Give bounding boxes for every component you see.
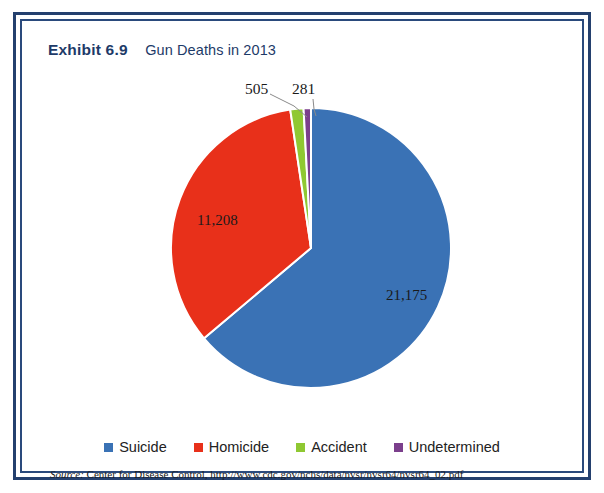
source-prefix: Source: (50, 468, 84, 480)
legend-label-accident: Accident (311, 439, 367, 455)
pie-slice-group (171, 108, 451, 388)
legend-label-homicide: Homicide (209, 439, 269, 455)
legend-item-suicide[interactable]: Suicide (104, 439, 167, 455)
pie-chart-svg: 21,175 11,208 505 281 (22, 21, 600, 489)
legend-swatch-accident (296, 443, 305, 452)
exhibit-card: Exhibit 6.9 Gun Deaths in 2013 21,175 11… (13, 12, 591, 480)
slice-value-label-accident: 505 (245, 80, 269, 97)
source-text: Center for Disease Control, http://www.c… (84, 468, 464, 480)
slice-value-label-undetermined: 281 (292, 80, 315, 97)
slice-value-label-suicide: 21,175 (386, 287, 427, 303)
legend-item-undetermined[interactable]: Undetermined (394, 439, 500, 455)
legend-swatch-undetermined (394, 443, 403, 452)
pie-chart-plot-area: 21,175 11,208 505 281 (22, 21, 600, 489)
legend-swatch-suicide (104, 443, 113, 452)
legend-label-undetermined: Undetermined (409, 439, 500, 455)
slice-value-label-homicide: 11,208 (197, 212, 238, 228)
exhibit-card-inner-border: Exhibit 6.9 Gun Deaths in 2013 21,175 11… (20, 19, 584, 473)
source-citation: Source: Center for Disease Control, http… (50, 468, 463, 480)
legend-item-accident[interactable]: Accident (296, 439, 367, 455)
chart-legend: Suicide Homicide Accident Undetermined (22, 439, 582, 455)
legend-label-suicide: Suicide (119, 439, 167, 455)
legend-item-homicide[interactable]: Homicide (194, 439, 269, 455)
legend-swatch-homicide (194, 443, 203, 452)
